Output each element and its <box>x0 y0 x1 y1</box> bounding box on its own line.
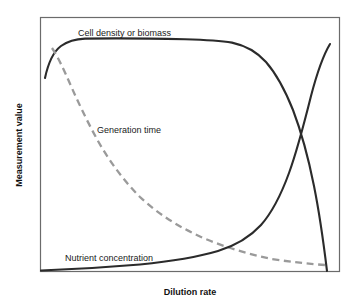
label-generation-time: Generation time <box>97 125 161 135</box>
chart-figure: Cell density or biomass Generation time … <box>0 0 361 305</box>
plot-area-frame <box>41 18 340 272</box>
label-cell-density: Cell density or biomass <box>78 28 172 38</box>
chemostat-chart: Cell density or biomass Generation time … <box>0 0 361 305</box>
x-axis-title: Dilution rate <box>164 287 217 297</box>
y-axis-title: Measurement value <box>14 103 24 187</box>
label-nutrient-concentration: Nutrient concentration <box>65 253 153 263</box>
